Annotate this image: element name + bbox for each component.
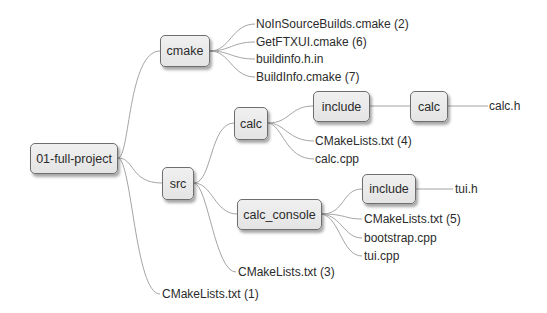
node-calc-include[interactable]: include: [313, 91, 370, 122]
leaf-calc-cpp[interactable]: calc.cpp: [315, 152, 359, 166]
node-label: src: [170, 177, 187, 191]
leaf-buildinfo-h-in[interactable]: buildinfo.h.in: [256, 52, 323, 66]
leaf-noinsourcebuilds-cmake[interactable]: NoInSourceBuilds.cmake (2): [256, 17, 409, 31]
node-cmake[interactable]: cmake: [160, 35, 210, 67]
node-label: calc_console: [243, 208, 315, 222]
leaf-root-cmakelists[interactable]: CMakeLists.txt (1): [162, 287, 259, 301]
directory-mind-map: 01-full-project cmake src calc include c…: [0, 0, 547, 313]
leaf-calc-cmakelists[interactable]: CMakeLists.txt (4): [315, 134, 412, 148]
leaf-tui-h[interactable]: tui.h: [455, 182, 478, 196]
node-calc-console-include[interactable]: include: [362, 174, 416, 204]
node-calc[interactable]: calc: [234, 107, 268, 140]
node-calc-include-calc[interactable]: calc: [410, 91, 448, 122]
node-label: cmake: [167, 44, 204, 58]
leaf-getftxui-cmake[interactable]: GetFTXUI.cmake (6): [256, 35, 367, 49]
node-label: calc: [418, 100, 440, 114]
node-label: include: [322, 100, 362, 114]
leaf-tui-cpp[interactable]: tui.cpp: [364, 249, 399, 263]
leaf-console-cmakelists[interactable]: CMakeLists.txt (5): [364, 212, 461, 226]
node-label: include: [369, 182, 409, 196]
node-label: 01-full-project: [36, 152, 112, 166]
node-calc-console[interactable]: calc_console: [237, 199, 322, 230]
leaf-buildinfo-cmake[interactable]: BuildInfo.cmake (7): [256, 70, 359, 84]
node-root-01-full-project[interactable]: 01-full-project: [30, 143, 118, 174]
leaf-calc-h[interactable]: calc.h: [489, 99, 520, 113]
leaf-bootstrap-cpp[interactable]: bootstrap.cpp: [364, 231, 437, 245]
node-src[interactable]: src: [162, 167, 194, 200]
node-label: calc: [240, 117, 262, 131]
leaf-src-cmakelists[interactable]: CMakeLists.txt (3): [238, 265, 335, 279]
